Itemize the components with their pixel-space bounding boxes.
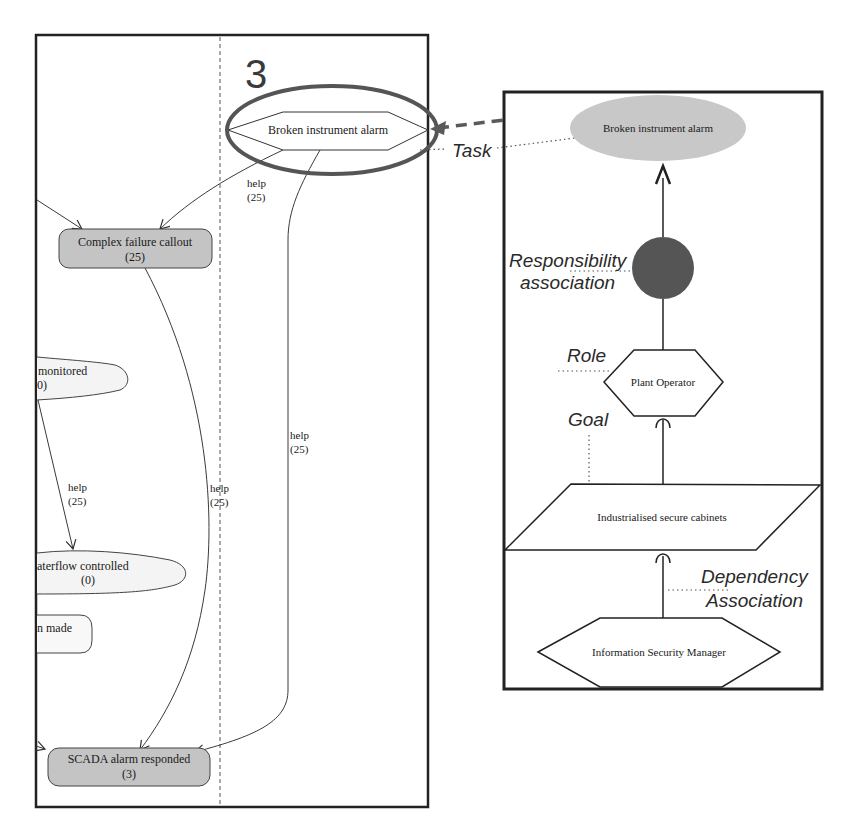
svg-text:(25): (25) [68,495,87,508]
edge-label-monitored-waterflow: help (25) [68,481,87,508]
diagram-canvas: 3 help (25) help (25) help (25) help (25… [0,0,849,834]
svg-text:(3): (3) [122,767,136,781]
edge-label-alarm-scada: help (25) [290,429,309,456]
annotation-role: Role [567,345,606,366]
right-panel: Task Broken instrument alarm Responsibil… [420,92,822,689]
edge-label-complex-scada: help (25) [210,482,229,509]
dashed-link-line [438,119,512,128]
svg-text:0): 0) [37,378,47,392]
svg-text:(25): (25) [290,443,309,456]
annotation-dependency-line2: Association [705,590,803,611]
left-panel-border [36,35,428,807]
svg-text:help: help [247,177,266,189]
left-panel: 3 help (25) help (25) help (25) help (25… [36,35,437,807]
svg-text:aterflow controlled: aterflow controlled [37,559,129,573]
svg-text:(25): (25) [125,250,145,264]
svg-text:Broken instrument alarm: Broken instrument alarm [268,123,389,137]
annotation-responsibility-line2: association [520,272,615,293]
responsibility-association-circle[interactable] [632,237,694,299]
annotation-goal: Goal [568,409,609,430]
node-complex-failure-callout[interactable]: Complex failure callout (25) [59,229,212,268]
annotation-responsibility-line1: Responsibility [509,250,628,271]
svg-text:monitored: monitored [38,364,87,378]
svg-text:(25): (25) [210,496,229,509]
annotation-dependency-line1: Dependency [701,566,809,587]
svg-text:Broken instrument alarm: Broken instrument alarm [603,122,713,134]
node-scada-alarm-responded[interactable]: SCADA alarm responded (3) [48,748,210,786]
svg-text:SCADA alarm responded: SCADA alarm responded [68,752,191,766]
svg-text:help: help [210,482,229,494]
svg-text:help: help [68,481,87,493]
node-task-broken-instrument-alarm[interactable]: Broken instrument alarm [570,95,746,161]
svg-text:Information Security Manager: Information Security Manager [592,646,726,658]
svg-text:Industrialised secure cabinets: Industrialised secure cabinets [597,511,727,523]
svg-text:(25): (25) [247,191,266,204]
svg-text:Complex failure callout: Complex failure callout [78,235,193,249]
edge-label-alarm-complex: help (25) [247,177,266,204]
svg-text:Plant Operator: Plant Operator [631,376,696,388]
svg-text:(0): (0) [81,573,95,587]
svg-text:help: help [290,429,309,441]
node-decision-made[interactable]: n made [37,615,92,653]
section-number: 3 [245,52,267,96]
annotation-task: Task [452,140,493,161]
svg-text:n made: n made [37,621,72,635]
